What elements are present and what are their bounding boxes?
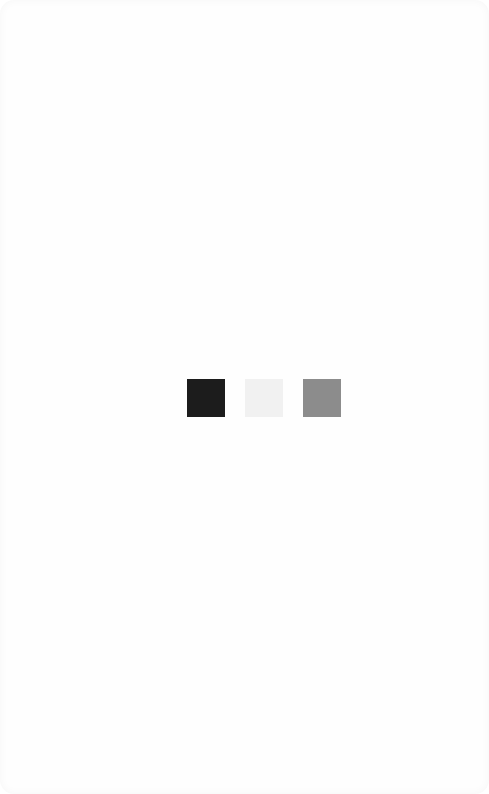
- loader-square-dark: [187, 379, 225, 417]
- loading-indicator: [187, 379, 341, 417]
- loader-square-light: [245, 379, 283, 417]
- loader-square-gray: [303, 379, 341, 417]
- splash-screen: [0, 0, 489, 794]
